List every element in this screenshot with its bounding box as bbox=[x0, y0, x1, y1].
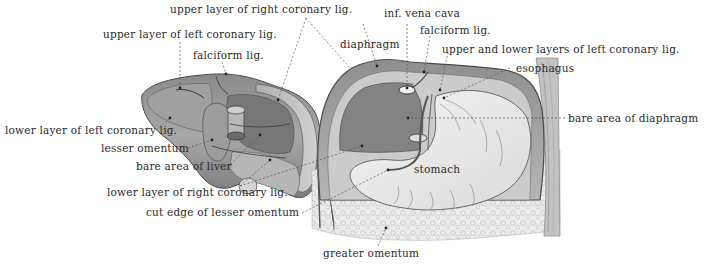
label-cut-edge-of-lesser-omentum: cut edge of lesser omentum bbox=[146, 206, 299, 218]
label-upper-layer-left-coronary-lig: upper layer of left coronary lig. bbox=[103, 28, 277, 40]
label-bare-area-of-liver: bare area of liver bbox=[136, 160, 232, 172]
esophagus-opening bbox=[409, 134, 427, 142]
label-lower-layer-right-coronary-lig: lower layer of right coronary lig. bbox=[107, 186, 288, 198]
label-upper-layer-right-coronary-lig: upper layer of right coronary lig. bbox=[170, 3, 352, 15]
label-lower-layer-left-coronary-lig: lower layer of left coronary lig. bbox=[5, 124, 177, 136]
label-bare-area-of-diaphragm: bare area of diaphragm bbox=[568, 112, 698, 124]
label-lesser-omentum: lesser omentum bbox=[101, 142, 189, 154]
anatomical-figure: upper layer of right coronary lig. upper… bbox=[0, 0, 707, 265]
label-greater-omentum: greater omentum bbox=[323, 247, 419, 259]
label-esophagus: esophagus bbox=[516, 62, 574, 74]
label-falciform-lig-diaphragm: falciform lig. bbox=[420, 24, 491, 36]
label-stomach: stomach bbox=[414, 163, 460, 175]
label-falciform-lig-liver: falciform lig. bbox=[193, 49, 264, 61]
liver-ivc-tube bbox=[227, 106, 245, 140]
label-inf-vena-cava: inf. vena cava bbox=[384, 7, 460, 19]
abdominal-wall bbox=[312, 58, 560, 240]
label-diaphragm: diaphragm bbox=[340, 38, 400, 50]
label-upper-lower-layers-left-coronary-lig: upper and lower layers of left coronary … bbox=[442, 43, 680, 55]
